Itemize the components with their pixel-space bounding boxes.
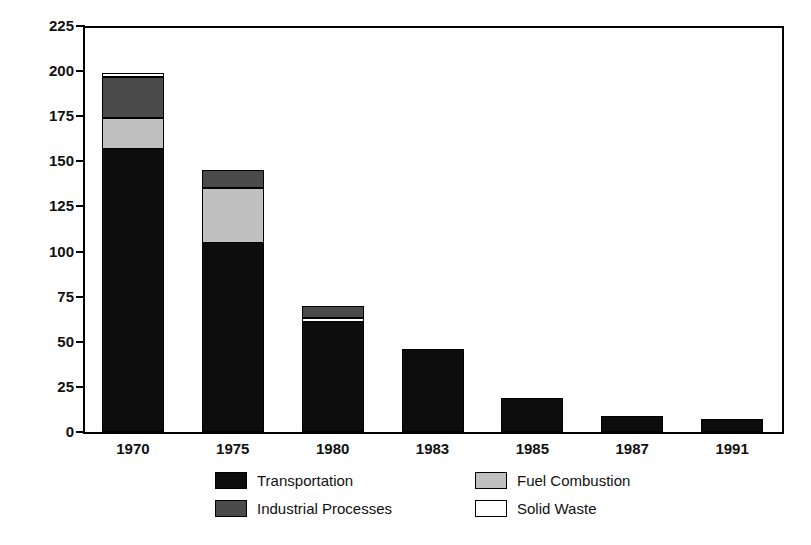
legend-swatch-icon — [475, 500, 507, 517]
y-axis-tick-label: 50 — [32, 334, 74, 349]
bar-segment[interactable] — [601, 416, 663, 432]
legend-label: Transportation — [257, 470, 353, 491]
bar-segment[interactable] — [501, 398, 563, 432]
legend-label: Industrial Processes — [257, 498, 392, 519]
legend-label: Solid Waste — [517, 498, 596, 519]
x-axis-tick-label: 1983 — [393, 440, 473, 457]
y-axis-tick-label-wrap: 100 — [18, 244, 74, 260]
x-axis-line — [83, 432, 782, 434]
y-axis-tick-label: 25 — [32, 379, 74, 394]
bar-segment[interactable] — [402, 349, 464, 432]
bar-segment[interactable] — [701, 419, 763, 432]
y-axis-tick-label-wrap: 0 — [18, 424, 74, 440]
x-axis-tick-label: 1987 — [592, 440, 672, 457]
bar-segment[interactable] — [302, 322, 364, 432]
legend-swatch-icon — [215, 500, 247, 517]
y-axis-tick-label-wrap: 175 — [18, 108, 74, 124]
y-axis-tick-label: 225 — [32, 18, 74, 33]
y-axis-tick-label: 100 — [32, 244, 74, 259]
chart-container: Million Metric Tons 02550751001251501752… — [0, 0, 811, 545]
y-axis-tick-label-wrap: 200 — [18, 63, 74, 79]
bar-segment[interactable] — [202, 243, 264, 432]
bar-segment[interactable] — [102, 118, 164, 149]
x-axis-tick-label: 1985 — [492, 440, 572, 457]
y-axis-tick-label-wrap: 125 — [18, 198, 74, 214]
bar-stack[interactable] — [701, 419, 763, 432]
legend-swatch-icon — [475, 472, 507, 489]
bar-stack[interactable] — [402, 349, 464, 432]
y-axis-tick-label-wrap: 150 — [18, 153, 74, 169]
x-axis-tick-label: 1975 — [193, 440, 273, 457]
bars-layer — [83, 26, 782, 432]
bar-segment[interactable] — [102, 73, 164, 77]
legend-swatch-icon — [215, 472, 247, 489]
bar-segment[interactable] — [202, 170, 264, 188]
y-axis-tick-label-wrap: 50 — [18, 334, 74, 350]
x-axis-tick-label: 1970 — [93, 440, 173, 457]
bar-segment[interactable] — [102, 149, 164, 432]
bar-stack[interactable] — [202, 170, 264, 432]
y-axis-tick-label: 150 — [32, 153, 74, 168]
y-axis-tick-label: 200 — [32, 63, 74, 78]
y-axis-tick-label-wrap: 75 — [18, 289, 74, 305]
legend-label: Fuel Combustion — [517, 470, 630, 491]
y-axis-tick-label: 0 — [32, 424, 74, 439]
x-axis-tick-label: 1991 — [692, 440, 772, 457]
bar-segment[interactable] — [302, 306, 364, 319]
y-axis-tick-label-wrap: 25 — [18, 379, 74, 395]
y-axis-tick-label: 75 — [32, 289, 74, 304]
chart-legend: TransportationFuel CombustionIndustrial … — [215, 470, 685, 526]
y-axis-tick-label: 175 — [32, 108, 74, 123]
y-axis-tick-label: 125 — [32, 198, 74, 213]
bar-segment[interactable] — [102, 77, 164, 119]
x-axis-tick-label: 1980 — [293, 440, 373, 457]
bar-stack[interactable] — [601, 416, 663, 432]
y-axis-tick-label-wrap: 225 — [18, 18, 74, 34]
bar-stack[interactable] — [302, 306, 364, 432]
bar-segment[interactable] — [302, 318, 364, 322]
bar-stack[interactable] — [501, 398, 563, 432]
bar-stack[interactable] — [102, 73, 164, 432]
bar-segment[interactable] — [202, 188, 264, 242]
